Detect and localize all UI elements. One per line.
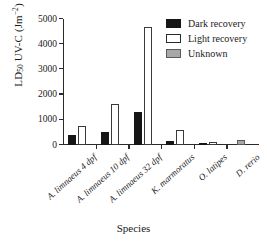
bar-light	[111, 104, 119, 145]
bar-unknown	[237, 140, 245, 145]
y-axis-tick	[59, 93, 63, 94]
bar-light	[144, 27, 152, 145]
legend-label: Light recovery	[188, 34, 247, 44]
y-axis-tick	[59, 43, 63, 44]
x-axis-tick	[161, 145, 162, 149]
x-axis-tick	[128, 145, 129, 149]
legend-label: Dark recovery	[188, 19, 245, 29]
y-axis-tick	[59, 144, 63, 145]
y-axis-tick-label: 3000	[38, 65, 57, 75]
x-axis-tick	[96, 145, 97, 149]
x-axis-title: Species	[0, 222, 267, 234]
bar-light	[209, 142, 217, 145]
y-axis-title: LD50 UV-C (Jm−2)	[11, 0, 25, 105]
legend-item: Dark recovery	[166, 16, 247, 31]
bar-dark	[166, 141, 174, 145]
y-axis-tick	[59, 119, 63, 120]
y-axis-tick	[59, 18, 63, 19]
bar-light	[176, 130, 184, 145]
chart-figure: LD50 UV-C (Jm−2) 010002000300040005000 A…	[0, 0, 267, 244]
legend-swatch-unknown	[166, 49, 181, 58]
legend-swatch-light	[166, 34, 181, 43]
y-axis-tick-label: 0	[52, 141, 57, 151]
y-axis-tick-label: 2000	[38, 90, 57, 100]
legend-swatch-dark	[166, 19, 181, 28]
x-axis-tick	[226, 145, 227, 149]
bar-dark	[134, 112, 142, 145]
bar-dark	[68, 135, 76, 145]
x-axis-tick	[194, 145, 195, 149]
bar-dark	[199, 143, 207, 145]
y-axis-tick	[59, 68, 63, 69]
bar-dark	[101, 132, 109, 145]
legend-item: Unknown	[166, 46, 247, 61]
y-axis-line	[63, 19, 64, 145]
y-axis-tick-label: 4000	[38, 40, 57, 50]
y-axis-tick-label: 1000	[38, 115, 57, 125]
bar-light	[78, 126, 86, 145]
legend-item: Light recovery	[166, 31, 247, 46]
y-axis-title-superscript: −2	[11, 7, 20, 15]
y-axis-title-subscript: 50	[16, 64, 25, 72]
legend-label: Unknown	[188, 49, 227, 59]
chart-legend: Dark recoveryLight recoveryUnknown	[166, 16, 247, 61]
y-axis-tick-label: 5000	[38, 15, 57, 25]
